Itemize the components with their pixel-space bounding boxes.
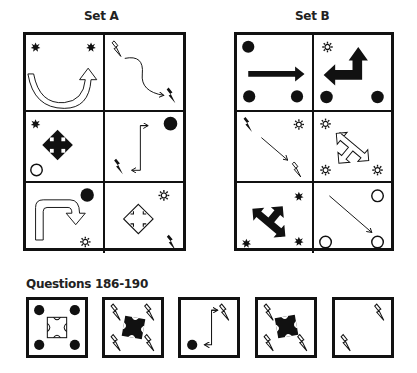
- four-way-arrow-filled-icon: [275, 315, 299, 339]
- sun-icon: [158, 190, 169, 201]
- lightning-outline-icon: [264, 335, 273, 351]
- circle-outline-icon: [320, 236, 332, 248]
- circle-filled-icon: [371, 91, 384, 104]
- star-burst-icon: [242, 239, 251, 248]
- set-b-cell-2: [314, 35, 391, 112]
- set-b-cell-5: [237, 183, 314, 253]
- circle-filled-icon: [187, 340, 197, 350]
- set-b-title: Set B: [295, 9, 329, 23]
- hook-arrow-icon: [36, 200, 86, 240]
- set-a-title: Set A: [84, 9, 118, 23]
- circle-outline-icon: [372, 190, 384, 202]
- diagonal-arrow-icon: [329, 196, 371, 233]
- circle-filled-icon: [242, 41, 254, 53]
- right-arrow-filled-icon: [248, 66, 304, 81]
- t-arrow-filled-icon: [247, 192, 299, 243]
- set-b-cell-3: [237, 112, 314, 183]
- question-190[interactable]: [332, 297, 394, 358]
- circle-filled-icon: [70, 340, 80, 350]
- lightning-outline-icon: [375, 304, 384, 320]
- four-way-arrow-outline-icon: [123, 204, 152, 233]
- sun-icon: [320, 119, 331, 130]
- set-b-cell-4: [314, 112, 391, 183]
- question-189[interactable]: [255, 297, 317, 358]
- sun-icon: [322, 42, 333, 53]
- circle-outline-icon: [372, 236, 384, 248]
- u-turn-arrow-icon: [28, 68, 97, 108]
- star-burst-icon: [294, 192, 303, 201]
- sun-icon: [80, 237, 91, 248]
- lightning-filled-icon: [166, 88, 175, 104]
- lightning-outline-icon: [112, 41, 121, 57]
- lightning-outline-icon: [341, 335, 350, 351]
- circle-filled-icon: [320, 91, 333, 104]
- question-187[interactable]: [102, 297, 164, 358]
- sun-icon: [320, 165, 331, 176]
- circle-filled-icon: [243, 90, 255, 102]
- circle-filled-icon: [34, 305, 44, 315]
- star-burst-icon: [31, 119, 41, 128]
- lightning-outline-icon: [264, 304, 273, 320]
- circle-filled-icon: [163, 117, 177, 131]
- z-arrow-icon: [204, 310, 217, 345]
- set-a-cell-2: [105, 35, 184, 112]
- z-arrow-icon: [131, 126, 148, 171]
- diagonal-arrow-icon: [261, 138, 287, 161]
- set-a-cell-6: [105, 183, 184, 253]
- lightning-outline-icon: [220, 304, 229, 320]
- circle-outline-icon: [31, 164, 42, 175]
- lightning-filled-icon: [166, 235, 175, 251]
- four-way-arrow-filled-icon: [42, 130, 73, 161]
- circle-filled-icon: [34, 340, 44, 350]
- set-b-cell-1: [237, 35, 314, 112]
- set-a-cell-1: [26, 35, 105, 112]
- lightning-outline-icon: [145, 335, 154, 351]
- lightning-outline-icon: [298, 335, 307, 351]
- lightning-outline-icon: [292, 162, 300, 177]
- sun-icon: [294, 119, 304, 129]
- circle-filled-icon: [81, 188, 94, 201]
- set-a-cell-4: [105, 112, 184, 183]
- set-a-cell-5: [26, 183, 105, 253]
- lightning-outline-icon: [145, 304, 154, 320]
- set-a-grid: [23, 32, 186, 251]
- bent-arrow-filled-icon: [324, 47, 368, 86]
- wavy-arrow-icon: [124, 58, 163, 96]
- star-burst-icon: [86, 42, 96, 51]
- circle-filled-icon: [70, 305, 80, 315]
- lightning-filled-icon: [114, 159, 123, 175]
- lightning-outline-icon: [111, 304, 120, 320]
- questions-title: Questions 186-190: [26, 277, 148, 291]
- circle-filled-icon: [291, 90, 303, 102]
- lightning-outline-icon: [111, 335, 120, 351]
- lightning-filled-icon: [244, 117, 252, 132]
- question-188[interactable]: [178, 297, 240, 358]
- four-way-arrow-outline-icon: [47, 317, 66, 337]
- set-b-grid: [234, 32, 394, 251]
- sun-icon: [372, 165, 383, 176]
- star-burst-icon: [294, 237, 303, 246]
- question-186[interactable]: [26, 297, 88, 358]
- star-burst-icon: [31, 42, 41, 51]
- four-way-arrow-filled-icon: [122, 316, 146, 340]
- set-a-cell-3: [26, 112, 105, 183]
- set-b-cell-6: [314, 183, 391, 253]
